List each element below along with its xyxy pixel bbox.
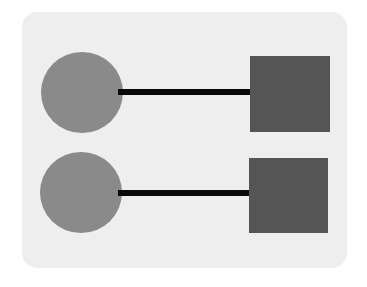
connector-bar-2[interactable] xyxy=(118,190,251,196)
connector-bar-1[interactable] xyxy=(118,89,252,95)
square-node-1[interactable] xyxy=(250,56,330,132)
canvas xyxy=(0,0,367,287)
circle-node-2[interactable] xyxy=(40,152,122,233)
square-node-2[interactable] xyxy=(249,158,328,233)
circle-node-1[interactable] xyxy=(41,52,123,133)
diagram-card xyxy=(22,12,347,268)
node-link-diagram xyxy=(22,12,347,268)
